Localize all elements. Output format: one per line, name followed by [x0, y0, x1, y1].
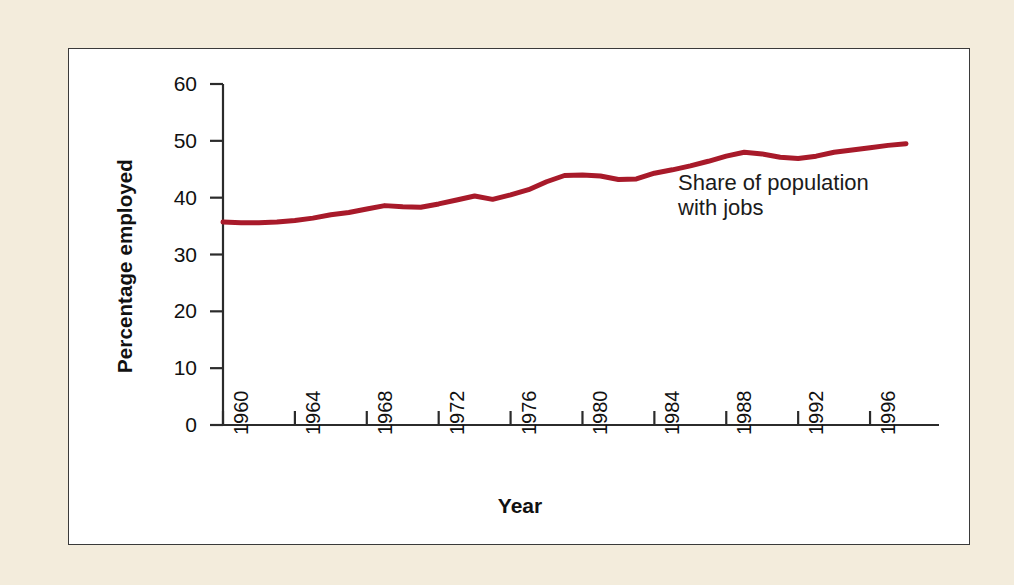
x-tick-label: 1972	[446, 391, 469, 436]
y-tick-label: 60	[153, 73, 197, 94]
y-tick-label: 40	[153, 187, 197, 208]
x-tick-label: 1984	[661, 391, 684, 436]
x-tick-label: 1988	[733, 391, 756, 436]
x-axis-title: Year	[69, 494, 971, 518]
plot-svg	[69, 49, 971, 546]
x-tick-label: 1964	[302, 391, 325, 436]
x-tick-label: 1992	[805, 391, 828, 436]
figure-root: 0102030405060 19601964196819721976198019…	[0, 0, 1014, 585]
series-annotation-label: Share of population with jobs	[678, 171, 869, 220]
y-tick-label: 30	[153, 244, 197, 265]
x-tick-label: 1996	[877, 391, 900, 436]
chart-plate: 0102030405060 19601964196819721976198019…	[68, 48, 970, 545]
y-tick-label: 10	[153, 357, 197, 378]
y-tick-label: 0	[153, 414, 197, 435]
x-tick-label: 1968	[374, 391, 397, 436]
plot-area: 0102030405060 19601964196819721976198019…	[69, 49, 971, 546]
y-tick-label: 20	[153, 300, 197, 321]
x-tick-label: 1980	[589, 391, 612, 436]
y-tick-label: 50	[153, 130, 197, 151]
x-tick-label: 1976	[518, 391, 541, 436]
x-tick-label: 1960	[230, 391, 253, 436]
y-axis-title: Percentage employed	[113, 146, 137, 386]
axes-group	[210, 84, 939, 425]
